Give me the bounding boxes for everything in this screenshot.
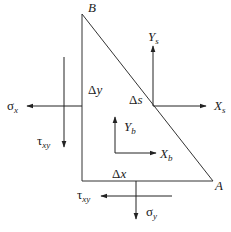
tau-xy-left-label: τxy	[37, 133, 50, 150]
delta-s-label: Δs	[129, 92, 142, 107]
ys-label: Ys	[148, 29, 159, 46]
sigma-y-label: σy	[146, 204, 157, 221]
vertex-a-label: A	[214, 178, 223, 193]
xb-label: Xb	[159, 146, 173, 163]
stress-element-diagram: B A Δy Δs Δx σx τxy τxy σy Ys Xs Yb Xb	[0, 0, 231, 232]
delta-y-label: Δy	[88, 82, 102, 97]
sigma-x-label: σx	[7, 98, 18, 115]
tau-xy-bottom-label: τxy	[77, 187, 90, 204]
delta-x-label: Δx	[112, 166, 126, 181]
xs-label: Xs	[213, 98, 226, 115]
diagram-svg: B A Δy Δs Δx σx τxy τxy σy Ys Xs Yb Xb	[0, 0, 231, 232]
vertex-b-label: B	[88, 0, 96, 15]
yb-label: Yb	[124, 119, 136, 136]
